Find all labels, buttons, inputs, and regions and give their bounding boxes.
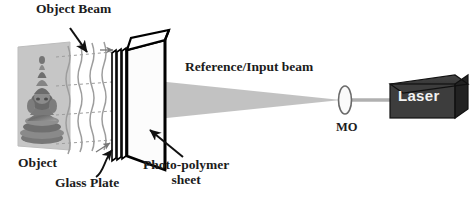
label-object-beam: Object Beam xyxy=(36,2,111,17)
plate-stack xyxy=(112,30,169,170)
label-photo-polymer-sheet: Photo-polymer sheet xyxy=(143,158,229,187)
object-beam-arrow xyxy=(70,28,87,52)
label-photo-polymer-line2: sheet xyxy=(171,172,200,187)
label-object: Object xyxy=(18,156,57,171)
figure-canvas: Object Beam Reference/Input beam MO Obje… xyxy=(0,0,471,208)
label-mo: MO xyxy=(336,121,358,135)
mo-lens xyxy=(339,86,352,114)
object-beam-tip-arrows xyxy=(96,50,113,152)
label-glass-plate: Glass Plate xyxy=(55,176,119,191)
reference-beam-cone xyxy=(128,78,392,122)
glass-plate-leader xyxy=(96,150,112,177)
label-laser: Laser xyxy=(398,87,440,104)
object-photo xyxy=(18,42,70,150)
label-photo-polymer-line1: Photo-polymer xyxy=(143,157,229,172)
object-beam-rays xyxy=(66,42,106,154)
label-reference-beam: Reference/Input beam xyxy=(185,60,313,75)
